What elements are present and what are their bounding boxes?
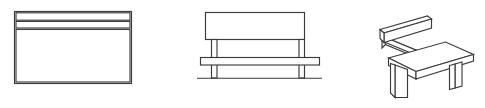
seat-plank (201, 58, 320, 66)
drawing-canvas (0, 0, 485, 108)
view-front-elevation (197, 13, 322, 79)
view-perspective (380, 16, 474, 98)
bench-drawing-sheet (0, 0, 485, 108)
rear-right-leg (455, 62, 462, 88)
top-slat (16, 13, 130, 20)
backrest-plank (206, 13, 305, 40)
second-slat (16, 21, 130, 28)
rear-right-leg-side (450, 64, 456, 90)
front-left-leg (395, 65, 408, 98)
view-elevation-panel (15, 12, 132, 84)
front-left-leg-side (391, 64, 396, 98)
lower-body-panel (16, 29, 130, 82)
